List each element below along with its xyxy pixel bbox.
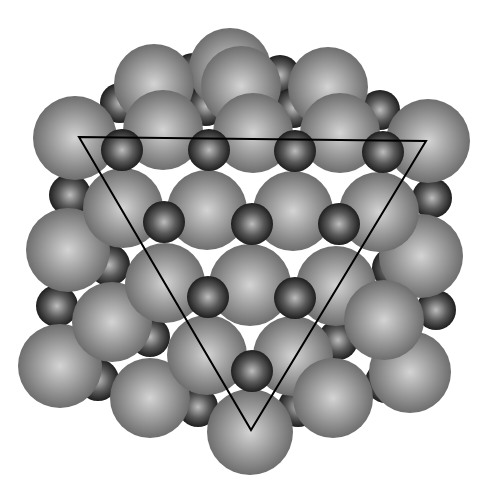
small-ion-sphere <box>231 203 273 245</box>
large-ion-sphere <box>293 358 373 438</box>
small-ion-sphere <box>362 131 404 173</box>
large-ion-sphere <box>344 280 424 360</box>
small-ion-sphere <box>188 129 230 171</box>
small-ion-sphere <box>187 276 229 318</box>
lattice-svg: Rock-salt lattice viewed along [111] wit… <box>0 0 488 489</box>
small-ion-sphere <box>143 201 185 243</box>
small-ion-sphere <box>274 130 316 172</box>
small-ion-sphere <box>274 277 316 319</box>
large-ion-sphere <box>207 389 293 475</box>
small-ion-sphere <box>231 350 273 392</box>
layer-front-large-bottom <box>207 389 293 475</box>
small-ion-sphere <box>101 129 143 171</box>
small-ion-sphere <box>318 203 360 245</box>
crystal-lattice-diagram: Rock-salt lattice viewed along [111] wit… <box>0 0 488 489</box>
